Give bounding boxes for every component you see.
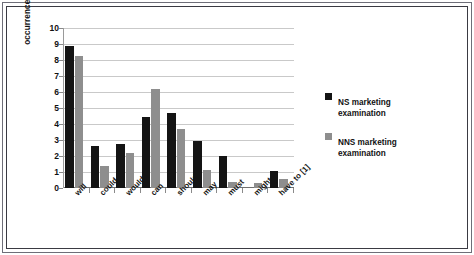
bar (219, 156, 228, 188)
legend-label-nns: NNS marketing examination (338, 138, 465, 160)
bar-group (191, 28, 217, 188)
bar-group (267, 28, 293, 188)
figure-container: occurrences per 1,000 words 012345678910… (0, 0, 474, 255)
y-axis-tick-label: 9 (43, 39, 59, 49)
bar-group (63, 28, 89, 188)
y-axis-tick-label: 5 (43, 103, 59, 113)
y-axis-tick-label: 2 (43, 151, 59, 161)
y-axis-tick-label: 0 (43, 183, 59, 193)
plot-area-wrapper: occurrences per 1,000 words 012345678910… (7, 7, 467, 248)
y-axis-tick-label: 1 (43, 167, 59, 177)
legend-swatch-ns-icon (325, 93, 332, 100)
y-axis-tick-label: 10 (43, 23, 59, 33)
chart-legend: NS marketing examination NNS marketing e… (325, 91, 465, 170)
bar-groups (63, 28, 293, 188)
bar-group (165, 28, 191, 188)
figure-inner-border: occurrences per 1,000 words 012345678910… (6, 6, 468, 249)
legend-item-nns: NNS marketing examination (325, 131, 465, 160)
bar (167, 113, 176, 188)
y-axis-tick-mark (59, 188, 63, 189)
y-axis-tick-label: 3 (43, 135, 59, 145)
y-axis-tick-labels: 012345678910 (43, 23, 59, 189)
legend-label-nns-line1: NNS marketing (338, 138, 397, 147)
bar-group (89, 28, 115, 188)
y-axis-tick-label: 4 (43, 119, 59, 129)
bar (151, 89, 160, 188)
y-axis-tick-label: 7 (43, 71, 59, 81)
x-axis-category-labels: willcouldwouldcanshouldmaymustmighthave … (63, 191, 303, 251)
legend-label-ns: NS marketing examination (338, 98, 465, 120)
legend-item-ns: NS marketing examination (325, 91, 465, 120)
bar (177, 129, 186, 188)
bar-group (216, 28, 242, 188)
bar (65, 46, 74, 188)
bar-group (242, 28, 268, 188)
bar-group (140, 28, 166, 188)
y-axis-tick-label: 6 (43, 87, 59, 97)
legend-label-ns-line1: NS marketing (338, 98, 391, 107)
y-axis-title: occurrences per 1,000 words (23, 0, 37, 47)
bar-group (114, 28, 140, 188)
bar (91, 146, 100, 188)
y-axis-tick-label: 8 (43, 55, 59, 65)
bar (75, 56, 84, 188)
legend-label-nns-line2: examination (338, 149, 465, 160)
legend-swatch-nns-icon (325, 133, 332, 140)
legend-label-ns-line2: examination (338, 109, 465, 120)
